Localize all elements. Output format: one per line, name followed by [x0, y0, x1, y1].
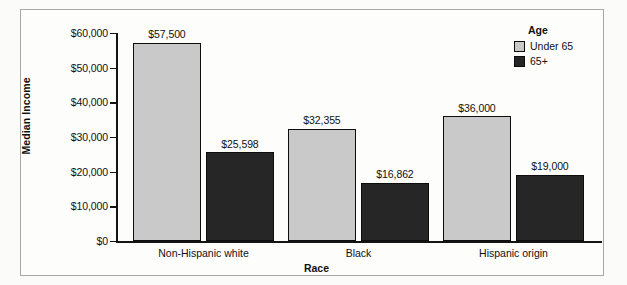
dark-swatch-icon — [514, 56, 525, 67]
bar-non-hispanic-white-under65 — [133, 43, 201, 241]
y-tick-label: $40,000 — [36, 96, 108, 108]
y-tick-mark-40000 — [110, 102, 117, 103]
y-axis-title: Median Income — [20, 56, 32, 176]
bar-hispanic-origin-over65 — [516, 175, 584, 241]
chart-figure: $60,000 $50,000 $40,000 $30,000 $20,000 … — [0, 0, 627, 285]
x-axis-title: Race — [0, 262, 627, 274]
y-tick-label: $20,000 — [36, 166, 108, 178]
legend-item-under-65: Under 65 — [514, 39, 600, 53]
legend-item-label: 65+ — [530, 55, 548, 67]
plot-area: $60,000 $50,000 $40,000 $30,000 $20,000 … — [0, 0, 627, 285]
bar-black-over65 — [361, 183, 429, 241]
y-tick-label-row-0: $0 — [28, 235, 108, 247]
y-tick-mark-50000 — [110, 68, 117, 69]
y-tick-label: $0 — [36, 235, 108, 247]
x-axis-title-text: Race — [304, 262, 329, 274]
y-tick-label-row-40000: $40,000 — [28, 96, 108, 108]
bar-black-under65 — [288, 129, 356, 241]
y-tick-mark-20000 — [110, 172, 117, 173]
y-tick-mark-10000 — [110, 206, 117, 207]
x-axis-line — [116, 241, 602, 243]
x-category-label-hispanic-origin: Hispanic origin — [443, 247, 584, 259]
y-tick-mark-0 — [110, 241, 117, 242]
y-tick-label-row-10000: $10,000 — [28, 200, 108, 212]
y-tick-mark-60000 — [110, 33, 117, 34]
y-tick-mark-30000 — [110, 137, 117, 138]
y-tick-label-row-50000: $50,000 — [28, 62, 108, 74]
y-tick-label: $30,000 — [36, 131, 108, 143]
light-gray-swatch-icon — [514, 41, 525, 52]
y-tick-label: $50,000 — [36, 62, 108, 74]
x-category-label-black: Black — [288, 247, 429, 259]
bar-value-label-non-hispanic-white-over65: $25,598 — [206, 138, 274, 150]
y-tick-label-row-60000: $60,000 — [28, 27, 108, 39]
legend-title: Age — [528, 24, 600, 36]
bar-hispanic-origin-under65 — [443, 116, 511, 241]
bar-value-label-hispanic-origin-under65: $36,000 — [443, 102, 511, 114]
y-tick-label-row-30000: $30,000 — [28, 131, 108, 143]
bar-value-label-black-under65: $32,355 — [288, 114, 356, 126]
legend-item-label: Under 65 — [530, 40, 573, 52]
legend: Age Under 65 65+ — [514, 24, 600, 69]
y-tick-label-row-20000: $20,000 — [28, 166, 108, 178]
legend-item-65-plus: 65+ — [514, 54, 600, 68]
bar-non-hispanic-white-over65 — [206, 152, 274, 241]
y-tick-label: $10,000 — [36, 200, 108, 212]
bar-value-label-black-over65: $16,862 — [361, 168, 429, 180]
y-tick-label: $60,000 — [36, 27, 108, 39]
x-category-label-non-hispanic-white: Non-Hispanic white — [133, 247, 274, 259]
bar-value-label-non-hispanic-white-under65: $57,500 — [133, 28, 201, 40]
bar-value-label-hispanic-origin-over65: $19,000 — [516, 160, 584, 172]
